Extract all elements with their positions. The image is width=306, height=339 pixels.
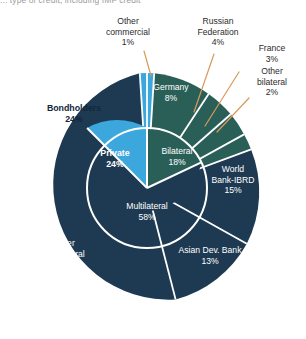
label-private: Private 24% [82, 148, 148, 169]
label-bondholders: Bondholders 24% [33, 103, 115, 124]
label-other-multilateral: Other multilateral 30% [26, 238, 102, 270]
label-other-bilateral: Other bilateral 2% [246, 66, 298, 98]
label-bilateral: Bilateral 18% [148, 146, 206, 167]
pie-chart-figure: ... type of credit, including IMF credit [0, 0, 306, 339]
label-other-commercial: Other commercial 1% [97, 16, 159, 48]
label-france: France 3% [246, 43, 298, 64]
label-asian-dev-bank: Asian Dev. Bank 13% [165, 245, 255, 266]
label-russian-federation: Russian Federation 4% [187, 16, 249, 48]
label-world-bank-ibrd: World Bank-IBRD 15% [202, 164, 264, 196]
label-germany: Germany 8% [140, 82, 202, 103]
leader-line-other-commercial [144, 51, 151, 76]
label-multilateral: Multilateral 58% [108, 201, 186, 222]
